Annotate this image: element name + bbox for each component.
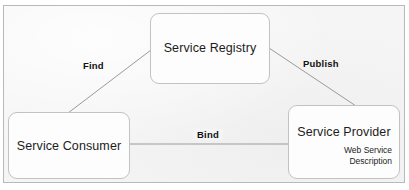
node-service-registry[interactable]: Service Registry [150,13,270,84]
diagram-canvas: Service Registry Service Consumer Servic… [0,0,409,190]
edge-label-bind: Bind [193,129,223,140]
edge-publish-line [269,48,356,106]
edge-label-find: Find [83,60,104,71]
edge-find-line [68,50,151,113]
node-service-provider-label: Service Provider [289,125,399,139]
node-service-provider-sublabel-web-service: Web Service [344,145,392,156]
node-service-consumer[interactable]: Service Consumer [8,112,130,179]
node-service-registry-label: Service Registry [151,41,269,55]
node-service-provider[interactable]: Service Provider Web Service Description [288,105,400,179]
edge-label-publish: Publish [303,58,339,69]
node-service-provider-sublabel-description: Description [349,156,392,167]
node-service-consumer-label: Service Consumer [9,139,129,153]
